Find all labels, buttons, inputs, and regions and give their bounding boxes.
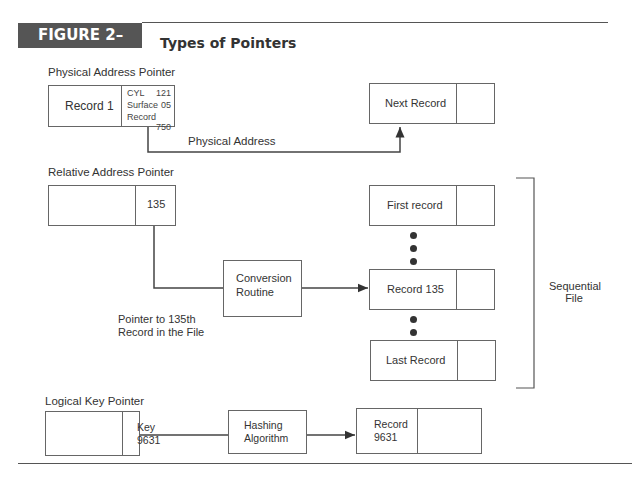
record-135-label: Record 135 [387,283,444,295]
field-divider [456,186,457,225]
field-divider [456,270,457,309]
cyl-name: CYL [127,88,145,98]
physical-record-box: Record 1 CYL121 Surface05 Record750 [48,85,175,127]
sequential-file-label: Sequential File [549,280,599,304]
last-record-box: Last Record [370,340,496,381]
caption-line2: Record in the File [118,326,204,338]
cyl-value: 121 [156,88,171,98]
surface-field: Surface05 [127,100,171,110]
first-record-label: First record [387,199,443,211]
footer-rule [18,463,632,464]
field-divider [456,84,457,123]
next-record-box: Next Record [369,83,495,124]
physical-address-label: Physical Address [188,135,276,147]
ellipsis-dot [410,245,417,252]
record-value: 750 [156,122,171,132]
pointer-value: 135 [147,198,165,210]
record-name: Record [127,112,156,122]
logical-pointer-label: Logical Key Pointer [45,395,144,407]
record-9631-box: Record 9631 [356,408,482,454]
first-record-box: First record [369,185,495,226]
ellipsis-dot [410,329,417,336]
record-9631-line2: 9631 [374,431,397,443]
key-line1: Key [137,421,155,433]
sequential-label-line2: File [549,292,599,304]
record-135-box: Record 135 [369,269,495,310]
hash-line1: Hashing [244,419,283,431]
surface-name: Surface [127,100,158,110]
record-1-label: Record 1 [65,99,114,113]
last-record-label: Last Record [386,354,445,366]
conversion-line1: Conversion [236,272,292,284]
next-record-label: Next Record [385,97,446,109]
sequential-label-line1: Sequential [549,280,599,292]
field-divider [121,86,122,126]
surface-value: 05 [161,100,171,110]
hash-line2: Algorithm [244,432,288,444]
hashing-algorithm-box: Hashing Algorithm [228,410,307,454]
logical-key-box: Key 9631 [45,411,140,456]
cyl-field: CYL121 [127,88,171,98]
caption-line1: Pointer to 135th [118,313,196,325]
field-divider [122,412,123,455]
record-9631-line1: Record [374,418,408,430]
ellipsis-dot [410,258,417,265]
field-divider [135,186,136,225]
relative-pointer-label: Relative Address Pointer [48,166,174,178]
key-line2: 9631 [137,434,160,446]
relative-pointer-box: 135 [48,185,176,226]
ellipsis-dot [410,316,417,323]
conversion-routine-box: Conversion Routine [223,260,302,317]
conversion-line2: Routine [236,286,274,298]
field-divider [457,341,458,380]
physical-pointer-label: Physical Address Pointer [48,66,175,78]
ellipsis-dot [410,232,417,239]
field-divider [417,409,418,453]
record-field: Record750 [127,112,171,132]
